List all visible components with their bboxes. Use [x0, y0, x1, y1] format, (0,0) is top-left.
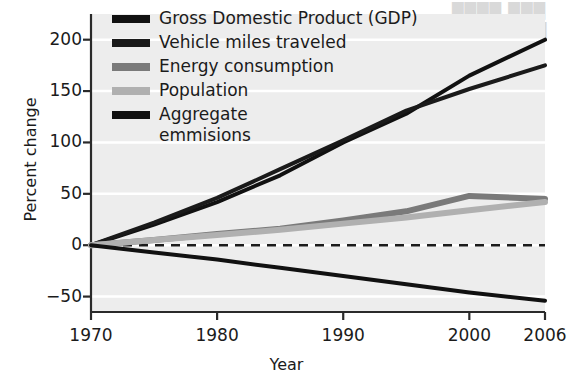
x-tick-label: 1970 [51, 325, 131, 345]
x-tick-label: 2006 [505, 325, 573, 345]
x-tick-label: 1990 [303, 325, 383, 345]
legend-item-label: Aggregate emmisions [159, 104, 251, 146]
legend-swatch-icon [112, 63, 150, 71]
y-tick-label: 200 [30, 31, 82, 48]
legend-item[interactable]: Gross Domestic Product (GDP) [112, 8, 442, 29]
legend-item[interactable]: Aggregate emmisions [112, 104, 442, 146]
legend-item-label: Energy consumption [159, 56, 334, 77]
chart-legend: Gross Domestic Product (GDP)Vehicle mile… [112, 8, 442, 149]
legend-swatch-icon [112, 39, 150, 47]
legend-swatch-icon [112, 87, 150, 95]
legend-item[interactable]: Energy consumption [112, 56, 442, 77]
legend-item[interactable]: Population [112, 80, 442, 101]
legend-item[interactable]: Vehicle miles traveled [112, 32, 442, 53]
y-tick-label: −50 [30, 288, 82, 305]
legend-item-label: Vehicle miles traveled [159, 32, 347, 53]
x-tick-label: 1980 [177, 325, 257, 345]
legend-swatch-icon [112, 15, 150, 23]
legend-item-label: Gross Domestic Product (GDP) [159, 8, 418, 29]
x-tick-label: 2000 [429, 325, 509, 345]
x-tick-marks [91, 312, 545, 320]
y-tick-marks [83, 40, 91, 297]
y-axis-title: Percent change [21, 60, 40, 260]
legend-item-label: Population [159, 80, 248, 101]
x-axis-title: Year [0, 355, 573, 374]
chart-figure: ████ ███ ████████ −50050100150200 197019… [0, 0, 573, 380]
legend-swatch-icon [112, 111, 150, 119]
